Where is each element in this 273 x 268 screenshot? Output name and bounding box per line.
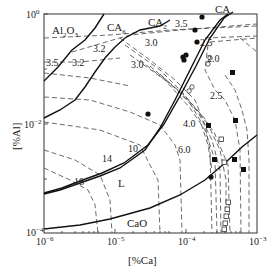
x-ticks — [62, 229, 240, 233]
svg-text:4.0: 4.0 — [183, 118, 196, 129]
region-label-ca: CA — [215, 3, 230, 15]
svg-text:3.2: 3.2 — [93, 43, 106, 54]
svg-text:3.0: 3.0 — [131, 59, 144, 70]
x-tick-label-3: 10−4 — [178, 235, 196, 247]
iso-oxygen-lines — [44, 24, 257, 233]
svg-text:18: 18 — [74, 176, 84, 187]
svg-text:3.2: 3.2 — [72, 57, 85, 68]
region-label-cao: CaO — [127, 217, 147, 229]
x-tick-label-4: 10−3 — [249, 235, 267, 247]
svg-text:3.0: 3.0 — [145, 37, 158, 48]
svg-text:2.5: 2.5 — [200, 37, 213, 48]
svg-text:2.5: 2.5 — [210, 90, 223, 101]
svg-text:10: 10 — [128, 143, 138, 154]
x-tick-label-2: 10−5 — [107, 235, 125, 247]
y-ticks — [44, 14, 48, 179]
svg-text:3.5: 3.5 — [175, 18, 188, 29]
x-tick-label-1: 10−6 — [36, 235, 54, 247]
svg-text:2.0: 2.0 — [207, 53, 220, 64]
region-label-l: L — [118, 177, 125, 189]
region-label-ca2: CA2 — [148, 16, 167, 31]
region-label-ca6: CA6 — [107, 21, 126, 36]
phase-diagram: Al2O3 CA6 CA2 CA L CaO 3.5 3.2 3.2 3.0 3… — [0, 0, 273, 268]
svg-text:3.5: 3.5 — [46, 57, 59, 68]
svg-text:14: 14 — [102, 153, 112, 164]
region-label-al2o3: Al2O3 — [52, 24, 78, 39]
y-tick-label-top: 100 — [26, 8, 40, 20]
svg-text:6.0: 6.0 — [178, 144, 191, 155]
y-axis-title: [%Al] — [10, 123, 22, 151]
x-axis-title: [%Ca] — [128, 254, 157, 266]
y-tick-label-mid: 10−2 — [24, 118, 42, 130]
